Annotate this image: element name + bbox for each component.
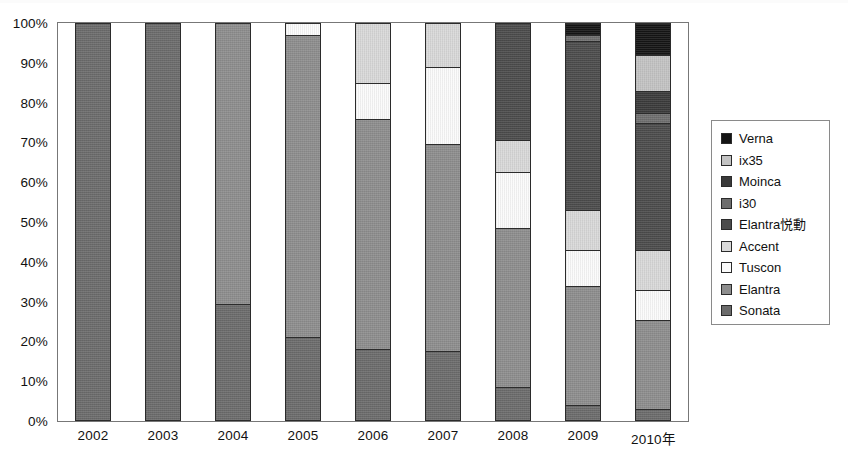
bar-segment[interactable] (425, 351, 461, 421)
bar-stack (285, 23, 321, 421)
bar-segment[interactable] (355, 83, 391, 119)
bar-segment[interactable] (635, 320, 671, 410)
bar-segment[interactable] (215, 23, 251, 304)
bar-stack (145, 23, 181, 421)
legend-item[interactable]: Accent (721, 236, 829, 258)
bar-column[interactable] (565, 23, 601, 421)
legend-swatch-icon (721, 241, 732, 252)
x-tick-label: 2005 (288, 428, 319, 443)
y-axis: 0%10%20%30%40%50%60%70%80%90%100% (0, 22, 55, 422)
bar-stack (635, 23, 671, 421)
bar-segment[interactable] (495, 172, 531, 228)
x-axis: 200220032004200520062007200820092010年 (58, 428, 688, 450)
x-tick-label: 2002 (78, 428, 109, 443)
bar-segment[interactable] (355, 349, 391, 421)
bar-column[interactable] (635, 23, 671, 421)
legend-label: Tuscon (739, 261, 781, 274)
bar-segment[interactable] (145, 23, 181, 421)
bar-segment[interactable] (425, 67, 461, 145)
legend: Vernaix35Moincai30Elantra悦動AccentTusconE… (711, 120, 830, 325)
legend-label: Verna (739, 132, 773, 145)
legend-swatch-icon (721, 198, 732, 209)
bar-segment[interactable] (75, 23, 111, 421)
legend-item[interactable]: i30 (721, 193, 829, 215)
stacked-bars (58, 23, 688, 421)
legend-item[interactable]: Sonata (721, 300, 829, 322)
bar-segment[interactable] (425, 23, 461, 67)
legend-label: Sonata (739, 304, 780, 317)
bar-segment[interactable] (635, 123, 671, 250)
y-tick-label: 50% (20, 215, 48, 230)
y-tick-label: 80% (20, 95, 48, 110)
y-tick-label: 90% (20, 55, 48, 70)
legend-item[interactable]: Elantra悦動 (721, 214, 829, 236)
legend-label: Accent (739, 240, 779, 253)
bar-segment[interactable] (495, 228, 531, 387)
chart-canvas: 0%10%20%30%40%50%60%70%80%90%100% 200220… (0, 0, 848, 473)
bar-column[interactable] (75, 23, 111, 421)
bar-segment[interactable] (635, 91, 671, 113)
bar-column[interactable] (215, 23, 251, 421)
bar-segment[interactable] (285, 23, 321, 35)
legend-swatch-icon (721, 219, 732, 230)
bar-segment[interactable] (355, 119, 391, 350)
legend-item[interactable]: Verna (721, 128, 829, 150)
y-tick-label: 20% (20, 334, 48, 349)
bar-segment[interactable] (565, 41, 601, 210)
bar-stack (215, 23, 251, 421)
legend-swatch-icon (721, 176, 732, 187)
legend-label: Elantra (739, 283, 780, 296)
y-tick-label: 10% (20, 374, 48, 389)
legend-item[interactable]: Elantra (721, 279, 829, 301)
bar-segment[interactable] (495, 387, 531, 421)
legend-label: Moinca (739, 175, 781, 188)
bar-stack (495, 23, 531, 421)
bar-segment[interactable] (285, 337, 321, 421)
bar-column[interactable] (495, 23, 531, 421)
legend-label: i30 (739, 197, 756, 210)
legend-swatch-icon (721, 262, 732, 273)
bar-column[interactable] (355, 23, 391, 421)
legend-swatch-icon (721, 133, 732, 144)
bar-segment[interactable] (635, 409, 671, 421)
bar-segment[interactable] (565, 405, 601, 421)
bar-segment[interactable] (285, 35, 321, 337)
legend-item[interactable]: Tuscon (721, 257, 829, 279)
bar-segment[interactable] (635, 250, 671, 290)
bar-segment[interactable] (635, 23, 671, 55)
y-tick-label: 30% (20, 294, 48, 309)
figure-caption (44, 455, 744, 472)
bar-segment[interactable] (635, 113, 671, 123)
bar-stack (355, 23, 391, 421)
bar-segment[interactable] (565, 210, 601, 250)
bar-segment[interactable] (565, 23, 601, 35)
bar-segment[interactable] (495, 23, 531, 140)
bar-stack (565, 23, 601, 421)
bar-segment[interactable] (495, 140, 531, 172)
bar-segment[interactable] (635, 55, 671, 91)
legend-item[interactable]: Moinca (721, 171, 829, 193)
legend-swatch-icon (721, 305, 732, 316)
bar-segment[interactable] (565, 286, 601, 405)
bar-segment[interactable] (215, 304, 251, 421)
bar-column[interactable] (425, 23, 461, 421)
legend-item[interactable]: ix35 (721, 150, 829, 172)
bar-segment[interactable] (635, 290, 671, 320)
bar-column[interactable] (145, 23, 181, 421)
y-tick-label: 100% (13, 16, 48, 31)
scan-artifact (0, 0, 848, 3)
bar-column[interactable] (285, 23, 321, 421)
x-tick-label: 2006 (358, 428, 389, 443)
bar-stack (425, 23, 461, 421)
y-tick-label: 70% (20, 135, 48, 150)
bar-segment[interactable] (565, 250, 601, 286)
x-tick-label: 2008 (498, 428, 529, 443)
x-tick-label: 2004 (218, 428, 249, 443)
x-tick-label: 2009 (568, 428, 599, 443)
legend-label: ix35 (739, 154, 763, 167)
y-tick-label: 0% (28, 414, 48, 429)
bar-stack (75, 23, 111, 421)
bar-segment[interactable] (425, 144, 461, 351)
bar-segment[interactable] (355, 23, 391, 83)
legend-swatch-icon (721, 284, 732, 295)
